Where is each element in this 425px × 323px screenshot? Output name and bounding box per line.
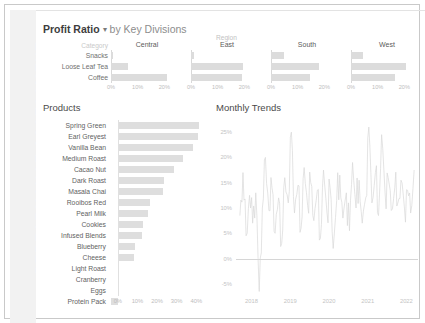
- axis-tick-label: 40%: [190, 298, 202, 304]
- dashboard-card: PERFORMANCE ASSESSMENT Profit Ratio▾by K…: [4, 4, 420, 319]
- axis-tick-label: 10%: [212, 84, 223, 90]
- axis-tick-label: -5%: [222, 281, 232, 287]
- product-bar[interactable]: [118, 221, 143, 228]
- region-bar[interactable]: [351, 74, 395, 81]
- trends-plot: [236, 122, 418, 294]
- axis-tick-label: 10%: [220, 205, 232, 211]
- products-zero-line: [118, 120, 119, 296]
- product-bar-zone: [110, 197, 208, 208]
- product-label: Protein Pack: [36, 296, 106, 307]
- product-row: Rooibos Red: [36, 197, 211, 208]
- region-bar[interactable]: [191, 63, 243, 70]
- product-bar[interactable]: [118, 199, 150, 206]
- trends-panel: Monthly Trends 25%20%15%10%5%0%-5% 20182…: [212, 102, 423, 317]
- axis-tick-label: 25%: [220, 129, 232, 135]
- axis-tick-label: 20%: [399, 84, 410, 90]
- product-bar-zone: [110, 263, 208, 274]
- product-label: Rooibos Red: [36, 197, 106, 208]
- product-label: Cacao Nut: [36, 164, 106, 175]
- region-bar[interactable]: [351, 52, 363, 59]
- region-bar[interactable]: [191, 52, 194, 59]
- axis-tick-label: 15%: [220, 180, 232, 186]
- chevron-down-icon[interactable]: ▾: [103, 25, 107, 34]
- axis-tick-label: 20%: [151, 298, 163, 304]
- axis-tick-label: 10%: [372, 84, 383, 90]
- product-bar[interactable]: [118, 122, 199, 129]
- region-panel-title: East: [191, 41, 263, 48]
- region-panel-east: East0%10%20%: [191, 34, 263, 96]
- region-bar[interactable]: [111, 63, 128, 70]
- product-bar-zone: [110, 186, 208, 197]
- region-panel: Region Category SnacksLoose Leaf TeaCoff…: [36, 34, 425, 96]
- trends-title: Monthly Trends: [216, 102, 281, 113]
- product-row: Dark Roast: [36, 175, 211, 186]
- product-bar[interactable]: [118, 243, 136, 250]
- category-label: Coffee: [36, 72, 108, 83]
- category-label: Snacks: [36, 50, 108, 61]
- region-panel-plot: [351, 50, 423, 84]
- axis-tick-label: 0%: [114, 298, 122, 304]
- product-bar-zone: [110, 285, 208, 296]
- header-divider: [36, 10, 425, 11]
- region-panel-ticks: 0%10%20%: [351, 84, 423, 94]
- region-bar[interactable]: [111, 74, 167, 81]
- product-row: Medium Roast: [36, 153, 211, 164]
- product-bar[interactable]: [118, 232, 143, 239]
- region-bar[interactable]: [351, 63, 406, 70]
- product-row: Cookies: [36, 219, 211, 230]
- axis-tick-label: 10%: [132, 298, 144, 304]
- region-bar[interactable]: [271, 52, 284, 59]
- product-label: Infused Blends: [36, 230, 106, 241]
- dashboard-content: Profit Ratio▾by Key Divisions Region Cat…: [36, 10, 425, 323]
- product-bar[interactable]: [118, 210, 148, 217]
- product-bar-zone: [110, 175, 208, 186]
- region-panel-title: South: [271, 41, 343, 48]
- product-row: Cheese: [36, 252, 211, 263]
- product-label: Cheese: [36, 252, 106, 263]
- product-bar-zone: [110, 120, 208, 131]
- product-bar-zone: [110, 219, 208, 230]
- products-panel: Products Spring GreenEarl GreyestVanilla…: [36, 102, 211, 317]
- products-title: Products: [43, 102, 81, 113]
- trends-y-axis: 25%20%15%10%5%0%-5%: [212, 122, 234, 294]
- region-bar[interactable]: [271, 63, 319, 70]
- dashboard-header: Profit Ratio▾by Key Divisions: [43, 19, 187, 35]
- product-row: Light Roast: [36, 263, 211, 274]
- products-rows: Spring GreenEarl GreyestVanilla BeanMedi…: [36, 120, 211, 307]
- region-panel-south: South0%10%20%: [271, 34, 343, 96]
- product-bar-zone: [110, 131, 208, 142]
- axis-tick-label: 0%: [107, 84, 115, 90]
- region-panel-plot: [271, 50, 343, 84]
- trends-line[interactable]: [240, 127, 414, 291]
- product-row: Eggs: [36, 285, 211, 296]
- product-bar[interactable]: [118, 144, 193, 151]
- region-panel-west: West0%10%20%: [351, 34, 423, 96]
- region-panel-ticks: 0%10%20%: [111, 84, 183, 94]
- product-bar[interactable]: [118, 133, 198, 140]
- products-plot: Spring GreenEarl GreyestVanilla BeanMedi…: [36, 120, 211, 296]
- product-label: Dark Roast: [36, 175, 106, 186]
- axis-tick-label: 0%: [187, 84, 195, 90]
- product-bar-zone: [110, 230, 208, 241]
- product-row: Vanilla Bean: [36, 142, 211, 153]
- axis-tick-label: 2022: [400, 298, 413, 304]
- product-bar-zone: [110, 142, 208, 153]
- watermark-band: PERFORMANCE ASSESSMENT: [10, 10, 36, 323]
- product-bar[interactable]: [118, 177, 164, 184]
- region-panel-central: Central0%10%20%: [111, 34, 183, 96]
- products-x-axis: 0%10%20%30%40%: [110, 298, 208, 308]
- product-label: Spring Green: [36, 120, 106, 131]
- category-axis-title: Category: [36, 42, 108, 49]
- product-row: Pearl Milk: [36, 208, 211, 219]
- product-bar[interactable]: [118, 166, 174, 173]
- product-bar[interactable]: [118, 254, 135, 261]
- axis-tick-label: 0%: [267, 84, 275, 90]
- product-bar[interactable]: [118, 188, 163, 195]
- product-bar[interactable]: [118, 155, 183, 162]
- axis-tick-label: 20%: [239, 84, 250, 90]
- region-panel-plot: [111, 50, 183, 84]
- region-bar[interactable]: [271, 74, 310, 81]
- region-bar[interactable]: [111, 52, 113, 59]
- product-label: Eggs: [36, 285, 106, 296]
- region-bar[interactable]: [191, 74, 242, 81]
